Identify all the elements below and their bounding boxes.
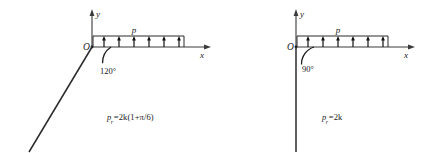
x-axis-label-left: x [199, 50, 204, 60]
load-arrow [351, 36, 355, 47]
formula-right-rhs: 2k [334, 112, 343, 122]
formula-right: pr=2k [322, 112, 342, 124]
x-axis-label-right: x [403, 50, 408, 60]
load-arrow [321, 36, 325, 47]
angle-label-right: 90° [302, 64, 314, 74]
formula-left: pr=2k(1+π/6) [107, 112, 154, 124]
load-arrow [177, 36, 181, 47]
load-arrows-right [306, 36, 385, 47]
y-axis-right [294, 9, 299, 47]
figure-left: y x O [29, 9, 211, 152]
load-arrow [336, 36, 340, 47]
load-arrow [306, 36, 310, 47]
figure-right: y x O [287, 9, 415, 152]
load-arrow [102, 36, 106, 47]
y-axis-label-left: y [95, 9, 100, 19]
load-label-right: p [335, 25, 341, 35]
load-arrow [132, 36, 136, 47]
load-arrow [162, 36, 166, 47]
load-arrow [381, 36, 385, 47]
load-label-left: p [131, 25, 137, 35]
load-arrow [117, 36, 121, 47]
angle-arc-left [102, 47, 111, 63]
origin-label-right: O [287, 42, 294, 52]
figure-root: y x O [0, 0, 434, 153]
y-axis-left [90, 9, 95, 47]
load-arrows-left [102, 36, 181, 47]
diagram-canvas: y x O [0, 0, 434, 153]
angle-label-left: 120° [100, 66, 116, 76]
formula-left-rhs: 2k(1+π/6) [119, 112, 154, 122]
formula-left-sub: r [111, 119, 113, 125]
load-arrow [366, 36, 370, 47]
inclined-edge-left [29, 47, 92, 152]
load-arrow [147, 36, 151, 47]
angle-arc-right [301, 47, 314, 65]
formula-right-sub: r [326, 119, 328, 125]
x-axis-left [92, 45, 211, 50]
y-axis-label-right: y [299, 9, 304, 19]
origin-label-left: O [83, 42, 90, 52]
